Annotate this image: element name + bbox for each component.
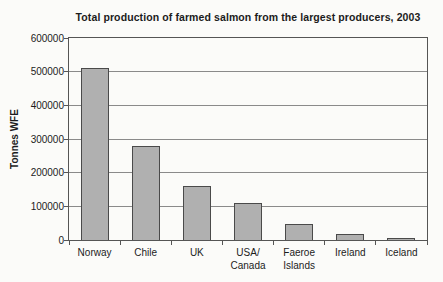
x-tick-mark (375, 241, 376, 245)
bar-faeroe (285, 224, 313, 240)
bar-norway (81, 68, 109, 240)
y-tick-mark (64, 172, 68, 173)
x-tick-mark (222, 241, 223, 245)
y-tick-label: 500000 (18, 66, 64, 77)
bar-usa (234, 203, 262, 240)
bar-iceland (387, 238, 415, 240)
x-tick-mark (273, 241, 274, 245)
y-tick-mark (64, 71, 68, 72)
y-tick-mark (64, 105, 68, 106)
plot-area (68, 37, 428, 241)
bar-uk (183, 186, 211, 240)
x-category-label: Iceland (370, 247, 432, 260)
x-tick-mark (171, 241, 172, 245)
y-tick-label: 200000 (18, 167, 64, 178)
y-tick-label: 400000 (18, 100, 64, 111)
x-tick-mark (69, 241, 70, 245)
x-tick-mark (427, 241, 428, 245)
gridline-300000 (69, 139, 427, 140)
y-tick-label: 300000 (18, 134, 64, 145)
y-tick-mark (64, 139, 68, 140)
x-tick-mark (120, 241, 121, 245)
chart-title: Total production of farmed salmon from t… (60, 11, 436, 23)
bar-ireland (336, 234, 364, 240)
y-tick-label: 0 (18, 235, 64, 246)
y-tick-label: 600000 (18, 33, 64, 44)
y-tick-mark (64, 38, 68, 39)
gridline-400000 (69, 105, 427, 106)
bar-chart: Total production of farmed salmon from t… (0, 0, 443, 282)
bar-chile (132, 146, 160, 240)
y-tick-label: 100000 (18, 201, 64, 212)
x-tick-mark (324, 241, 325, 245)
gridline-500000 (69, 71, 427, 72)
y-tick-mark (64, 206, 68, 207)
y-tick-mark (64, 240, 68, 241)
gridline-200000 (69, 172, 427, 173)
